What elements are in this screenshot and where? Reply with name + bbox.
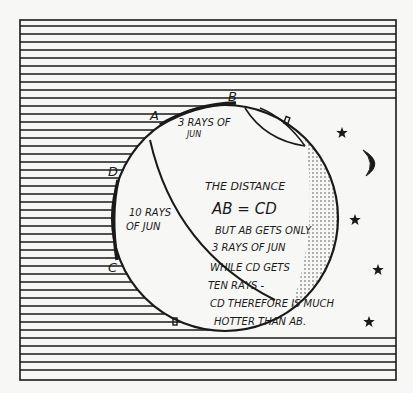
label-cd-rays: 10 RAYS xyxy=(129,207,172,218)
explanation-line-6: TEN RAYS - xyxy=(208,280,265,291)
explanation-line-5: WHILE CD GETS xyxy=(210,262,290,273)
star-icon xyxy=(349,214,360,225)
explanation-line-8: HOTTER THAN AB. xyxy=(214,316,306,327)
label-cd-rays-2: OF JUN xyxy=(126,221,161,232)
sun-rays-diagram: A B D C 3 RAYS OF JUN 10 RAYS OF JUN THE… xyxy=(0,0,413,393)
explanation-line-2: AB = CD xyxy=(211,200,277,218)
explanation-line-3: BUT AB GETS ONLY xyxy=(215,225,312,236)
stars xyxy=(336,127,383,327)
explanation-line-1: THE DISTANCE xyxy=(205,180,285,193)
label-ab-rays-2: JUN xyxy=(185,130,201,139)
label-point-a: A xyxy=(149,108,159,123)
label-ab-rays: 3 RAYS OF xyxy=(178,117,231,128)
crescent-moon-icon xyxy=(363,150,375,176)
label-point-b: B xyxy=(228,89,237,104)
explanation-line-7: CD THEREFORE IS MUCH xyxy=(210,298,335,309)
star-icon xyxy=(363,316,374,327)
star-icon xyxy=(372,264,383,275)
star-icon xyxy=(336,127,347,138)
label-point-d: D xyxy=(108,164,118,179)
label-point-c: C xyxy=(108,260,118,275)
explanation-line-4: 3 RAYS OF JUN xyxy=(212,242,286,253)
